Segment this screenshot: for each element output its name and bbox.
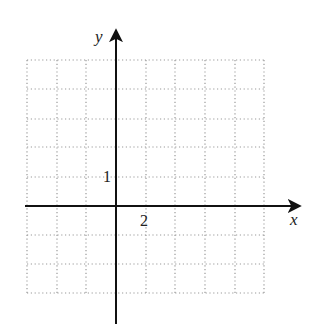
x-tick-label: 2 bbox=[140, 212, 148, 229]
coordinate-plane: x y 2 1 bbox=[0, 0, 319, 326]
y-axis-label: y bbox=[93, 27, 103, 46]
y-tick-label: 1 bbox=[103, 168, 111, 185]
x-axis-label: x bbox=[289, 210, 298, 229]
grid bbox=[27, 60, 264, 293]
